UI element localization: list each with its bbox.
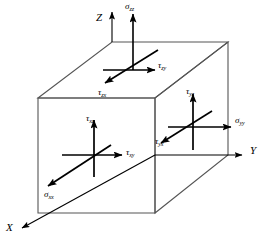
tau-yz-label: τyz (186, 87, 194, 97)
tau-xy-subscript: xy (129, 152, 134, 158)
coordinate-axes (22, 12, 242, 228)
tau-zx-label: τzx (98, 88, 106, 98)
tau-yz-subscript: yz (189, 91, 194, 97)
sigma-yy-label: σyy (235, 116, 244, 126)
tau-zx-subscript: zx (101, 92, 106, 98)
sigma-xx-subscript: xx (48, 194, 53, 200)
sigma-zz-subscript: zz (129, 6, 133, 12)
tau-yx-subscript: yx (158, 141, 163, 147)
tau-xz-subscript: xz (89, 118, 94, 124)
front-face-stress-group (48, 120, 122, 186)
x-axis-line (22, 155, 155, 228)
tau-zy-subscript: zy (161, 65, 166, 71)
sigma-xx-arrow (48, 145, 111, 186)
stress-element-figure: Z Y X σzz τzy τzx τxz τxy σxx τyz σyy τy… (0, 0, 270, 243)
x-axis-label: X (6, 222, 13, 233)
z-axis-label: Z (96, 12, 102, 23)
tau-yx-label: τyx (155, 137, 163, 147)
tau-zx-arrow (105, 50, 158, 83)
tau-xz-label: τxz (86, 114, 94, 124)
top-face-stress-group (103, 14, 158, 83)
right-face-stress-group (161, 94, 231, 150)
tau-zy-label: τzy (158, 61, 166, 71)
stress-element-diagram (0, 0, 270, 243)
sigma-xx-label: σxx (44, 190, 53, 200)
sigma-yy-subscript: yy (239, 120, 244, 126)
sigma-zz-label: σzz (125, 2, 134, 12)
tau-xy-label: τxy (126, 148, 134, 158)
y-axis-label: Y (250, 145, 256, 156)
